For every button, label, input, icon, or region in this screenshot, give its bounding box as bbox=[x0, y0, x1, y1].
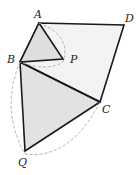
label-q: Q bbox=[18, 156, 27, 169]
label-a: A bbox=[33, 8, 42, 21]
label-p: P bbox=[69, 53, 78, 66]
label-c: C bbox=[102, 103, 111, 116]
label-d: D bbox=[124, 12, 134, 25]
geometry-diagram: A D B P C Q bbox=[0, 0, 140, 175]
label-b: B bbox=[6, 53, 15, 66]
